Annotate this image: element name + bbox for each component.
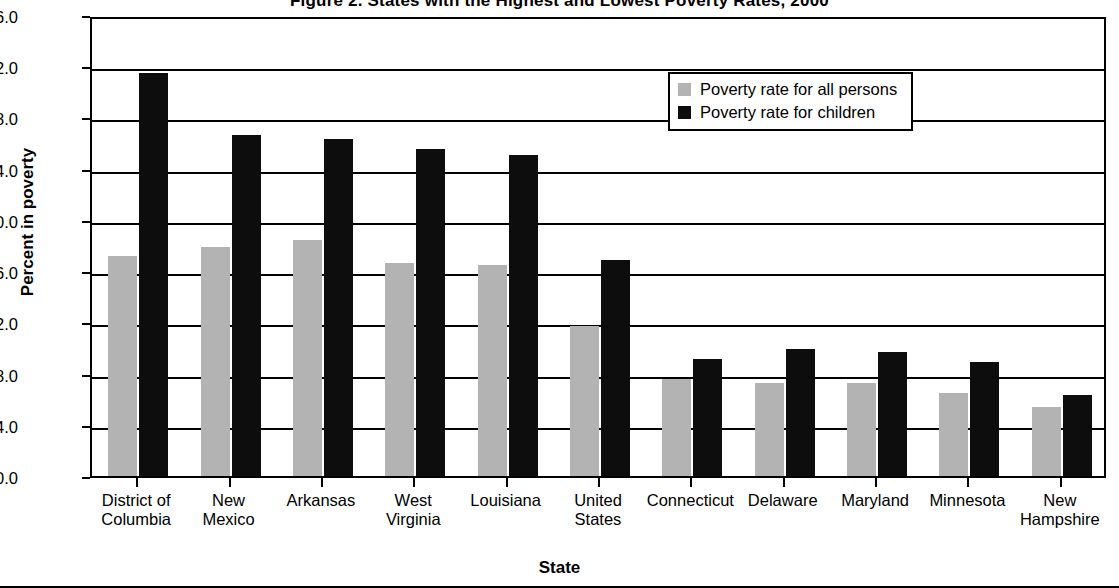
bar-children [786,349,815,476]
gridline [92,69,1104,71]
x-axis-tick-mark [598,478,600,487]
legend-label-all-persons: Poverty rate for all persons [700,80,897,99]
gridline [92,120,1104,122]
y-axis-tick-mark [82,272,90,274]
x-axis-tick-mark [690,478,692,487]
x-axis-tick-mark [783,478,785,487]
bar-all-persons [755,383,784,476]
bar-children [509,155,538,476]
y-axis-tick-label: 36.0 [0,9,18,26]
y-axis-tick-label: 20.0 [0,214,18,231]
x-axis-tick-mark [413,478,415,487]
bar-all-persons [201,247,230,476]
x-axis-tick-label: New Hampshire [1001,491,1119,529]
bar-all-persons [939,393,968,476]
y-axis-tick-mark [82,323,90,325]
chart-title: Figure 2. States with the Highest and Lo… [0,0,1119,11]
bar-all-persons [847,383,876,476]
x-axis-tick-mark [1060,478,1062,487]
legend-item-all-persons: Poverty rate for all persons [678,78,897,101]
x-axis-tick-mark [967,478,969,487]
y-axis-title: Percent in poverty [18,102,38,342]
bar-all-persons [570,326,599,476]
y-axis-tick-mark [82,375,90,377]
y-axis-tick-mark [82,170,90,172]
x-axis-tick-mark [506,478,508,487]
bar-all-persons [1032,407,1061,476]
x-axis-tick-mark [875,478,877,487]
bar-all-persons [662,379,691,476]
bar-children [232,135,261,476]
bar-children [416,149,445,476]
y-axis-tick-label: 0.0 [0,470,18,487]
y-axis-tick-label: 4.0 [0,419,18,436]
poverty-rate-bar-chart: Figure 2. States with the Highest and Lo… [0,0,1119,588]
y-axis-tick-mark [82,477,90,479]
bar-all-persons [293,240,322,476]
y-axis-tick-label: 12.0 [0,316,18,333]
legend-label-children: Poverty rate for children [700,103,875,122]
x-axis-tick-mark [321,478,323,487]
x-axis-tick-mark [229,478,231,487]
y-axis-tick-label: 16.0 [0,265,18,282]
y-axis-tick-label: 24.0 [0,163,18,180]
bar-children [139,73,168,476]
plot-area [90,17,1106,478]
bar-children [693,359,722,476]
y-axis-tick-mark [82,16,90,18]
legend-swatch-all-persons [678,83,691,96]
bar-children [1063,395,1092,476]
y-axis-tick-mark [82,426,90,428]
y-axis-tick-label: 28.0 [0,111,18,128]
bar-all-persons [108,256,137,476]
bar-children [324,139,353,476]
bar-all-persons [385,263,414,476]
y-axis-tick-mark [82,67,90,69]
chart-legend: Poverty rate for all persons Poverty rat… [668,72,913,131]
legend-swatch-children [678,106,691,119]
y-axis-tick-label: 32.0 [0,60,18,77]
legend-item-children: Poverty rate for children [678,101,897,124]
bar-children [970,362,999,476]
bar-children [601,260,630,476]
y-axis-tick-mark [82,118,90,120]
x-axis-title: State [0,558,1119,578]
x-axis-tick-mark [136,478,138,487]
bar-children [878,352,907,476]
y-axis-tick-mark [82,221,90,223]
bar-all-persons [478,265,507,476]
y-axis-tick-label: 8.0 [0,368,18,385]
